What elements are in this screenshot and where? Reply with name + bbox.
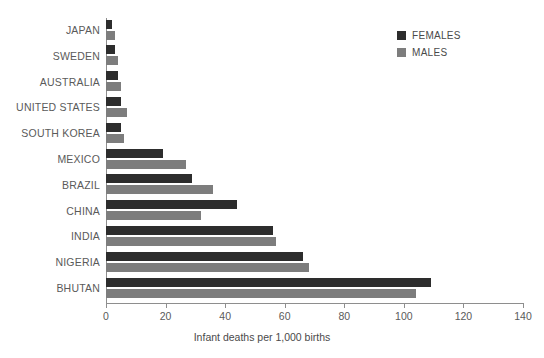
x-axis-line — [106, 303, 523, 304]
y-label-china: CHINA — [0, 205, 100, 217]
x-tick-label-60: 60 — [279, 310, 291, 322]
y-label-india: INDIA — [0, 230, 100, 242]
legend-swatch-males — [397, 48, 406, 57]
bar-males-bhutan — [106, 289, 416, 298]
bar-females-brazil — [106, 174, 192, 183]
x-tick-120 — [463, 303, 464, 308]
x-tick-label-40: 40 — [219, 310, 231, 322]
y-label-brazil: BRAZIL — [0, 179, 100, 191]
y-label-bhutan: BHUTAN — [0, 282, 100, 294]
legend-item-females: FEMALES — [397, 27, 461, 43]
bar-females-australia — [106, 71, 118, 80]
bar-males-united-states — [106, 108, 127, 117]
y-label-nigeria: NIGERIA — [0, 256, 100, 268]
bar-males-china — [106, 211, 201, 220]
legend-item-males: MALES — [397, 44, 461, 60]
x-tick-label-140: 140 — [514, 310, 532, 322]
y-label-mexico: MEXICO — [0, 153, 100, 165]
y-label-south-korea: SOUTH KOREA — [0, 127, 100, 139]
chart-legend: FEMALESMALES — [397, 27, 461, 61]
bar-group-china — [106, 199, 523, 225]
x-tick-label-120: 120 — [455, 310, 473, 322]
bar-males-south-korea — [106, 134, 124, 143]
legend-label-females: FEMALES — [412, 30, 461, 41]
bar-females-mexico — [106, 149, 163, 158]
bar-males-sweden — [106, 56, 118, 65]
y-label-australia: AUSTRALIA — [0, 76, 100, 88]
y-label-japan: JAPAN — [0, 24, 100, 36]
bar-females-china — [106, 200, 237, 209]
bar-females-united-states — [106, 97, 121, 106]
x-tick-40 — [225, 303, 226, 308]
bar-males-brazil — [106, 185, 213, 194]
bar-males-australia — [106, 82, 121, 91]
legend-label-males: MALES — [412, 47, 447, 58]
legend-swatch-females — [397, 31, 406, 40]
bar-females-japan — [106, 20, 112, 29]
x-tick-label-100: 100 — [395, 310, 413, 322]
x-tick-140 — [523, 303, 524, 308]
x-axis-title-text: Infant deaths per 1,000 births — [194, 331, 331, 343]
bar-group-mexico — [106, 147, 523, 173]
x-tick-label-0: 0 — [103, 310, 109, 322]
x-tick-0 — [106, 303, 107, 308]
bar-females-india — [106, 226, 273, 235]
bar-females-nigeria — [106, 252, 303, 261]
bar-males-nigeria — [106, 263, 309, 272]
bar-group-brazil — [106, 173, 523, 199]
bar-group-india — [106, 225, 523, 251]
bar-group-bhutan — [106, 276, 523, 302]
bar-group-south-korea — [106, 121, 523, 147]
bar-group-australia — [106, 70, 523, 96]
bar-males-india — [106, 237, 276, 246]
bar-males-mexico — [106, 160, 186, 169]
x-tick-20 — [166, 303, 167, 308]
x-tick-60 — [285, 303, 286, 308]
bar-females-south-korea — [106, 123, 121, 132]
y-label-united-states: UNITED STATES — [0, 101, 100, 113]
x-tick-80 — [344, 303, 345, 308]
bar-group-nigeria — [106, 250, 523, 276]
x-tick-100 — [404, 303, 405, 308]
bar-males-japan — [106, 31, 115, 40]
x-tick-label-80: 80 — [338, 310, 350, 322]
x-tick-label-20: 20 — [160, 310, 172, 322]
bar-group-united-states — [106, 95, 523, 121]
bar-females-bhutan — [106, 278, 431, 287]
y-axis-category-labels: JAPANSWEDENAUSTRALIAUNITED STATESSOUTH K… — [0, 18, 100, 302]
x-axis-title: Infant deaths per 1,000 births — [0, 331, 544, 343]
bar-females-sweden — [106, 45, 115, 54]
infant-mortality-bar-chart: JAPANSWEDENAUSTRALIAUNITED STATESSOUTH K… — [0, 0, 544, 358]
y-label-sweden: SWEDEN — [0, 50, 100, 62]
